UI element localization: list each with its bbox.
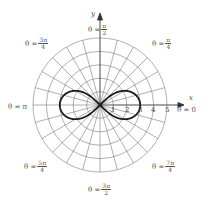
angle-label-0: θ = 0 (177, 106, 196, 114)
angle-label-pi-over-4: θ =π4 (152, 37, 171, 50)
angle-label-3pi-over-2: θ =3π2 (88, 183, 111, 196)
angle-label-3pi-over-4: θ =3π4 (25, 37, 48, 50)
grid-ray (100, 72, 158, 106)
grid-ray (42, 72, 100, 106)
axes (98, 13, 185, 108)
grid-ray (83, 105, 100, 170)
grid-ray (100, 105, 117, 170)
r-tick-1: 1 (111, 106, 115, 114)
y-axis-arrow-icon (98, 13, 103, 20)
angle-label-pi-over-2: θ =π2 (88, 23, 107, 36)
x-axis-label: x (189, 94, 193, 102)
angle-label-pi: θ = π (8, 103, 27, 111)
r-tick-4: 4 (151, 106, 155, 114)
angle-label-5pi-over-4: θ =5π4 (24, 160, 47, 173)
angle-label-7pi-over-4: θ =7π4 (152, 160, 175, 173)
grid-ray (100, 47, 134, 105)
r-tick-5: 5 (165, 106, 169, 114)
r-tick-2: 2 (125, 106, 129, 114)
grid-ray (67, 47, 101, 105)
grid-ray (100, 40, 117, 105)
grid-ray (67, 105, 101, 163)
y-axis-label: y (91, 10, 95, 18)
grid-ray (83, 40, 100, 105)
grid-ray (42, 105, 100, 139)
r-tick-3: 3 (138, 106, 142, 114)
